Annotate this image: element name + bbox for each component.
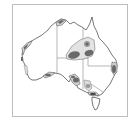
australia-map	[0, 0, 137, 125]
tasmania-outline	[92, 97, 100, 110]
